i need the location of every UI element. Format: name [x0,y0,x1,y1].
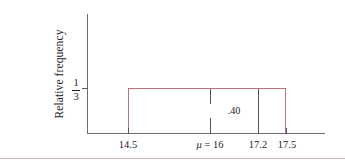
x-tick-mark-14-5 [128,128,129,134]
x-tick-mark-16 [210,128,211,134]
y-axis-line [87,14,88,134]
page-bottom-rule [0,158,345,159]
y-axis-title: Relative frequency [50,12,68,136]
uniform-density-rectangle [128,88,286,133]
y-tick-label-one-third: 1 3 [70,78,82,102]
x-tick-label-mu-16: μ = 16 [185,138,235,151]
fraction-numerator: 1 [70,78,82,88]
x-tick-label-17-5: 17.5 [268,138,306,151]
uniform-distribution-figure: Relative frequency 1 3 14.5 μ = 16 17.2 … [0,0,345,165]
area-annotation-arrow: .40 [210,105,258,119]
x-axis-line [87,133,325,134]
mu-value: = 16 [202,139,224,150]
x-tick-mark-17-2 [258,128,259,134]
y-tick-mark-one-third [82,88,88,89]
x-tick-mark-17-5 [286,128,287,134]
fraction-denominator: 3 [70,92,82,102]
x-tick-label-14-5: 14.5 [108,138,148,151]
area-annotation-label: .40 [210,104,258,118]
